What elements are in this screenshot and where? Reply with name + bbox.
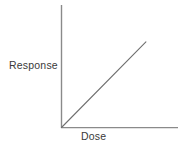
dose-response-chart: Response Dose xyxy=(0,0,188,148)
y-axis-label: Response xyxy=(9,59,58,71)
chart-plot-area xyxy=(0,0,188,148)
dose-response-line xyxy=(62,42,146,128)
x-axis-label: Dose xyxy=(81,130,106,142)
